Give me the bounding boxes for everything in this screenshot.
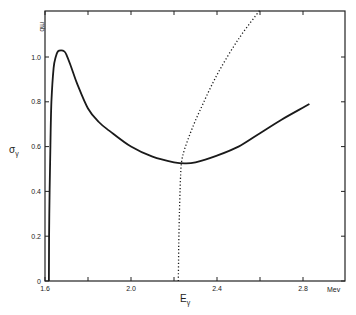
plot-frame bbox=[45, 11, 345, 281]
x-tick-label: 2.0 bbox=[126, 285, 136, 292]
x-axis-ticks: 1.62.02.42.8 bbox=[40, 11, 308, 292]
y-tick-label: 0.6 bbox=[31, 143, 41, 150]
dotted-curve bbox=[178, 10, 260, 281]
y-tick-label: 1.0 bbox=[31, 54, 41, 61]
x-tick-label: 2.8 bbox=[298, 285, 308, 292]
y-axis-label: σγ bbox=[9, 144, 19, 158]
plot-border bbox=[45, 11, 345, 281]
y-unit-label: mb bbox=[39, 22, 46, 32]
y-tick-label: 0.2 bbox=[31, 233, 41, 240]
x-axis-label: Eγ bbox=[180, 293, 191, 307]
data-series bbox=[49, 10, 310, 281]
cross-section-chart: 00.20.40.60.81.0 1.62.02.42.8 mb σγ Eγ M… bbox=[0, 0, 356, 315]
y-tick-label: 0.8 bbox=[31, 98, 41, 105]
y-tick-label: 0 bbox=[37, 278, 41, 285]
y-tick-label: 0.4 bbox=[31, 188, 41, 195]
x-unit-label: Mev bbox=[327, 286, 341, 293]
x-tick-label: 2.4 bbox=[212, 285, 222, 292]
x-tick-label: 1.6 bbox=[40, 285, 50, 292]
